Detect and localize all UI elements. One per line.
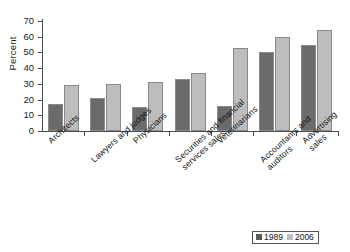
bar-2006-3 — [191, 73, 206, 131]
bar-chart: Percent 010203040506070 ArchitectsLawyer… — [0, 0, 350, 252]
y-axis-tick — [38, 100, 43, 101]
legend: 1989 2006 — [252, 231, 319, 244]
bar-1989-1 — [90, 98, 105, 131]
x-axis-tick — [84, 131, 85, 136]
legend-item-2006: 2006 — [287, 233, 314, 242]
y-axis-tick-label: 10 — [0, 109, 34, 120]
y-axis-tick-label: 60 — [0, 31, 34, 42]
x-axis-tick — [253, 131, 254, 136]
legend-swatch-1989-icon — [256, 234, 262, 240]
y-axis-tick-label: 0 — [0, 125, 34, 136]
plot-area — [42, 21, 338, 131]
bar-2006-5 — [275, 37, 290, 131]
y-axis-tick-label: 30 — [0, 78, 34, 89]
legend-label-1989: 1989 — [264, 233, 283, 242]
y-axis-tick — [38, 37, 43, 38]
legend-item-1989: 1989 — [256, 233, 283, 242]
bar-1989-3 — [175, 79, 190, 131]
y-axis-tick-label: 50 — [0, 46, 34, 57]
bar-1989-5 — [259, 52, 274, 131]
y-axis-tick — [38, 21, 43, 22]
legend-label-2006: 2006 — [295, 233, 314, 242]
y-axis-tick — [38, 84, 43, 85]
y-axis-tick — [38, 52, 43, 53]
bar-2006-1 — [106, 84, 121, 131]
x-axis-tick — [169, 131, 170, 136]
y-axis-tick — [38, 68, 43, 69]
y-axis-tick — [38, 131, 43, 132]
x-axis-tick — [338, 131, 339, 136]
legend-swatch-2006-icon — [287, 234, 293, 240]
y-axis-tick — [38, 115, 43, 116]
y-axis-tick-label: 40 — [0, 62, 34, 73]
y-axis-tick-label: 20 — [0, 94, 34, 105]
y-axis-tick-label: 70 — [0, 15, 34, 26]
